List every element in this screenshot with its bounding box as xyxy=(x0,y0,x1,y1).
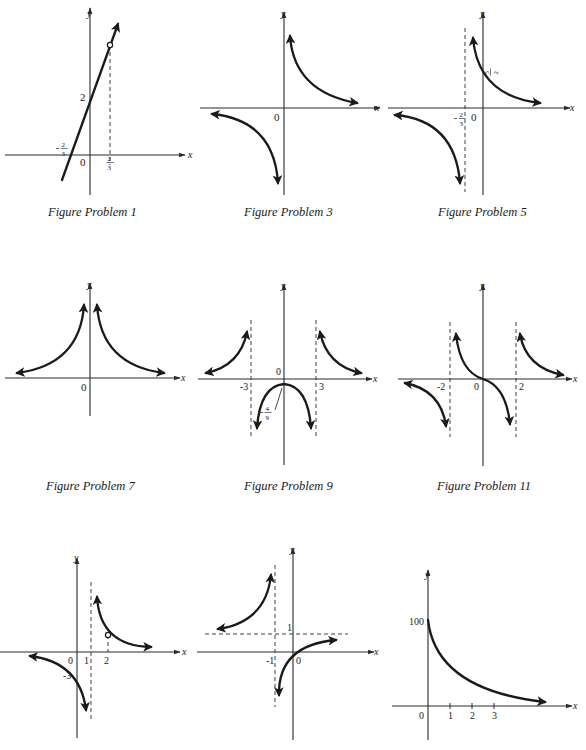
axis-label: x xyxy=(572,373,578,384)
axis-label: y xyxy=(424,569,430,580)
axis-label: y xyxy=(280,8,286,19)
graph-fig9: yx0-3349 xyxy=(198,280,378,465)
axis-label: x xyxy=(569,102,575,113)
tick-label: 2 xyxy=(460,111,464,119)
fraction-label: 49 xyxy=(260,405,272,422)
tick-label: -3 xyxy=(240,381,248,392)
tick-label: 5 xyxy=(483,71,491,75)
tick-label: 0 xyxy=(80,156,86,168)
tick-label: 0 xyxy=(419,710,424,721)
tick-label: 2 xyxy=(492,71,500,75)
tick-label: 3 xyxy=(62,150,66,158)
function-curve xyxy=(279,640,336,695)
tick-label: 1 xyxy=(287,622,292,633)
function-curve xyxy=(17,305,84,373)
tick-label: 0 xyxy=(68,655,73,666)
tick-label: 3 xyxy=(319,381,324,392)
axis-label: x xyxy=(181,646,187,657)
tick-label: 3 xyxy=(492,710,497,721)
figure-caption: Figure Problem 3 xyxy=(244,205,333,220)
figure-caption: Figure Problem 7 xyxy=(46,479,135,494)
tick-label: 0 xyxy=(276,366,281,377)
function-curve xyxy=(97,305,164,373)
open-circle-hole xyxy=(105,632,110,637)
axis-label: x xyxy=(373,646,379,657)
axis-label: y xyxy=(280,280,286,291)
tick-label: 0 xyxy=(471,111,477,123)
tick-label: 2 xyxy=(519,381,524,392)
graph-fig3: yx0 xyxy=(200,8,380,195)
tick-label: 0 xyxy=(274,111,280,123)
tick-label: 0 xyxy=(296,655,301,666)
axis-label: y xyxy=(86,279,92,290)
tick-label: 3 xyxy=(108,164,112,172)
axis-label: y xyxy=(86,8,92,19)
figure-sheet: yx202323yx0yx05223yx0yx0-3349yx-202yx012… xyxy=(0,0,586,750)
function-curve xyxy=(520,334,563,375)
function-curve xyxy=(290,36,357,103)
function-curve xyxy=(206,332,247,373)
open-circle-hole xyxy=(107,42,112,47)
function-curve xyxy=(395,115,460,183)
tick-label: -1 xyxy=(266,655,274,666)
leader-line xyxy=(275,388,282,410)
axis-label: x xyxy=(187,149,193,160)
axis-label: y xyxy=(479,280,485,291)
function-curve xyxy=(212,114,278,183)
graph-fig17: yx1000123 xyxy=(392,569,578,740)
graph-fig1: yx202323 xyxy=(5,8,193,195)
tick-label: -2 xyxy=(437,381,445,392)
axis-label: y xyxy=(73,552,79,563)
axis-label: y xyxy=(479,8,485,19)
axis-label: x xyxy=(180,372,186,383)
tick-label: 9 xyxy=(266,414,270,422)
tick-label: 2 xyxy=(62,141,66,149)
function-curve xyxy=(30,656,86,710)
fraction-label: 52 xyxy=(483,69,500,76)
figure-caption: Figure Problem 9 xyxy=(244,479,333,494)
function-curve xyxy=(428,620,545,702)
tick-label: 0 xyxy=(474,381,479,392)
fraction-label: 23 xyxy=(454,111,466,128)
tick-label: 1 xyxy=(448,710,453,721)
figure-caption: Figure Problem 1 xyxy=(48,205,137,220)
graph-fig15: yx1-10 xyxy=(197,544,379,740)
fraction-label: 23 xyxy=(107,155,114,172)
axis-label: y xyxy=(289,544,295,555)
tick-label: 2 xyxy=(80,91,86,103)
tick-label: 2 xyxy=(470,710,475,721)
tick-label: -3 xyxy=(63,670,71,681)
tick-label: 1 xyxy=(84,655,89,666)
tick-label: 2 xyxy=(104,655,109,666)
graph-fig11: yx-202 xyxy=(398,280,578,466)
function-curve xyxy=(97,597,151,647)
axis-label: x xyxy=(572,700,578,711)
graph-fig7: yx0 xyxy=(5,279,186,416)
tick-label: 100 xyxy=(409,616,424,627)
axis-label: x xyxy=(372,373,378,384)
graph-fig5: yx05223 xyxy=(388,8,575,195)
tick-label: 0 xyxy=(81,381,87,393)
tick-label: 3 xyxy=(460,120,464,128)
axis-label: x xyxy=(374,102,380,113)
figure-caption: Figure Problem 5 xyxy=(438,205,527,220)
figures-layer: yx202323yx0yx05223yx0yx0-3349yx-202yx012… xyxy=(0,8,578,740)
figure-caption: Figure Problem 11 xyxy=(437,479,531,494)
function-curve xyxy=(218,575,271,629)
graph-fig13: yx012-3 xyxy=(0,552,187,738)
function-curve xyxy=(320,332,361,373)
tick-label: 2 xyxy=(108,155,112,163)
tick-label: 4 xyxy=(266,405,270,413)
